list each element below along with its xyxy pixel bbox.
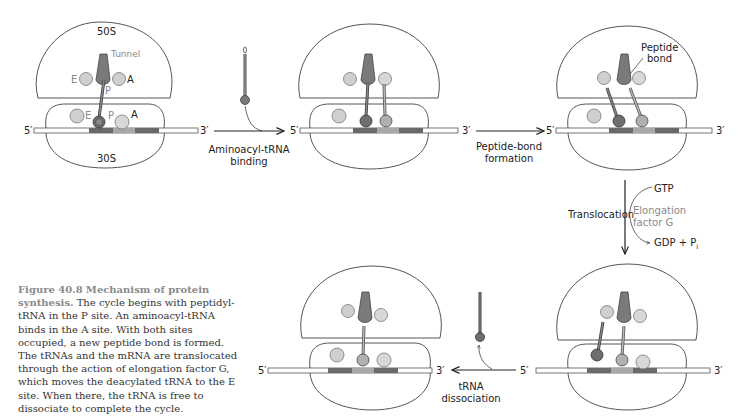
label-3prime: 3′: [716, 125, 725, 136]
label-5prime: 5′: [546, 125, 555, 136]
label-peptide-bond: Peptide: [641, 42, 678, 53]
label-a-site-30s: A: [131, 109, 138, 120]
label-30s: 30S: [97, 153, 116, 164]
step-label-translocation: Translocation: [567, 209, 634, 220]
label-tunnel: Tunnel: [110, 49, 140, 59]
step-peptide-bond-formation: Peptide-bond formation: [476, 131, 544, 164]
figure-caption: Figure 40.8 Mechanism of protein synthes…: [18, 283, 238, 415]
step-label: binding: [230, 156, 267, 167]
label-3prime: 3′: [436, 365, 445, 376]
ribosome-panel-3: Peptide bond 5′ 3′: [546, 26, 725, 170]
label-p-site-30s: P: [108, 110, 114, 121]
label-elongation-factor-g: Elongation: [633, 205, 686, 216]
step-label: dissociation: [441, 393, 500, 404]
step-label: tRNA: [458, 381, 483, 392]
label-5prime: 5′: [290, 125, 299, 136]
label-3prime: 3′: [462, 125, 471, 136]
step-aminoacyl-trna-binding: 3′ Aminoacyl-tRNA binding: [200, 47, 290, 167]
ribosome-panel-5: 5′ 3′: [258, 266, 445, 410]
label-gdp-pi: GDP + Pi: [654, 237, 698, 251]
label-e-site-30s: E: [85, 110, 91, 121]
figure-caption-text: The cycle begins with peptidyl-tRNA in t…: [18, 297, 237, 414]
label-5prime: 5′: [24, 125, 33, 136]
step-translocation: Translocation GTP Elongation factor G GD…: [567, 180, 698, 254]
figure-number: Figure 40.8: [18, 284, 83, 295]
label-gtp: GTP: [654, 183, 674, 194]
label-3prime: 3′: [714, 365, 723, 376]
label-elongation-factor-g: factor G: [633, 217, 673, 228]
label-5prime: 5′: [258, 365, 267, 376]
ribosome-panel-2: 5′ 3′: [290, 24, 471, 169]
step-trna-dissociation: 5′ tRNA dissociation: [441, 292, 529, 404]
label-50s: 50S: [97, 26, 116, 37]
step-label: Peptide-bond: [476, 141, 542, 152]
step-label: formation: [485, 153, 534, 164]
label-3prime-1: 3′: [200, 125, 209, 136]
label-5prime: 5′: [520, 365, 529, 376]
label-e-site-50s: E: [71, 74, 77, 85]
label-peptide-bond: bond: [647, 53, 672, 64]
ribosome-panel-4: 3′: [536, 264, 723, 410]
ribosome-panel-1: 50S 30S Tunnel E A P E P A 5′: [24, 22, 198, 168]
label-p-site-50s: P: [105, 85, 111, 96]
step-label: Aminoacyl-tRNA: [209, 144, 290, 155]
label-a-site-50s: A: [127, 74, 134, 85]
